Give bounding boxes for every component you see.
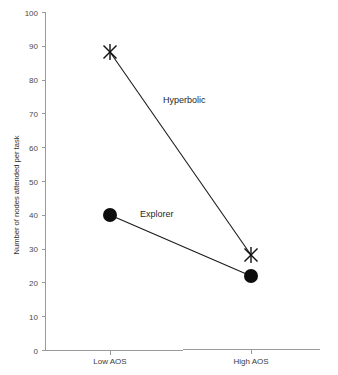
y-tick-label-50: 50 — [29, 178, 38, 187]
marker-explorer-high-aos — [244, 269, 258, 283]
y-tick-label-70: 70 — [29, 110, 38, 119]
y-tick-label-60: 60 — [29, 144, 38, 153]
chart-container: 100 90 80 70 60 50 40 30 20 10 0 Number … — [0, 0, 338, 375]
y-tick-label-90: 90 — [29, 42, 38, 51]
y-tick-label-80: 80 — [29, 76, 38, 85]
series-annotation-hyperbolic: Hyperbolic — [163, 95, 206, 105]
x-tick-label-low-aos: Low AOS — [93, 357, 126, 366]
x-axis-line — [46, 350, 321, 351]
y-tick-label-0: 0 — [34, 347, 39, 356]
y-tick-label-20: 20 — [29, 279, 38, 288]
series-annotation-explorer: Explorer — [140, 209, 174, 219]
y-tick-label-10: 10 — [29, 313, 38, 322]
y-tick-label-100: 100 — [25, 9, 39, 18]
y-tick-label-30: 30 — [29, 245, 38, 254]
y-tick-label-40: 40 — [29, 211, 38, 220]
x-tick-label-high-aos: High AOS — [233, 357, 268, 366]
line-chart: 100 90 80 70 60 50 40 30 20 10 0 Number … — [0, 0, 338, 375]
y-axis-title: Number of nodes attended per task — [12, 135, 21, 254]
marker-explorer-low-aos — [103, 208, 117, 222]
y-tick-group — [42, 13, 46, 351]
